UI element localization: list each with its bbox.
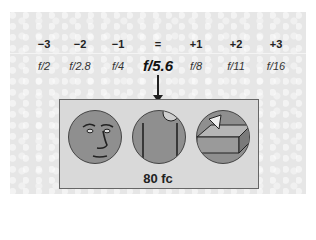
stop-minus-1: −1: [112, 38, 125, 50]
fnumber-5-6-selected: f/5.6: [143, 57, 173, 74]
stop-plus-3: +3: [270, 38, 283, 50]
stop-equal: =: [155, 38, 161, 50]
row-divider: [10, 53, 306, 54]
arrow-down-icon: [157, 75, 159, 97]
door-icon: [132, 110, 186, 164]
stop-minus-2: −2: [74, 38, 87, 50]
stop-plus-2: +2: [230, 38, 243, 50]
fnumber-2-8: f/2.8: [69, 60, 90, 72]
stop-minus-3: −3: [38, 38, 51, 50]
fnumber-8: f/8: [190, 60, 202, 72]
stop-plus-1: +1: [190, 38, 203, 50]
fnumber-4: f/4: [112, 60, 124, 72]
fnumber-2: f/2: [38, 60, 50, 72]
face-icon: [68, 110, 122, 164]
fnumber-11: f/11: [227, 60, 245, 72]
fnumber-16: f/16: [267, 60, 285, 72]
illuminance-label: 80 fc: [0, 171, 316, 186]
block-icon: [196, 110, 250, 164]
